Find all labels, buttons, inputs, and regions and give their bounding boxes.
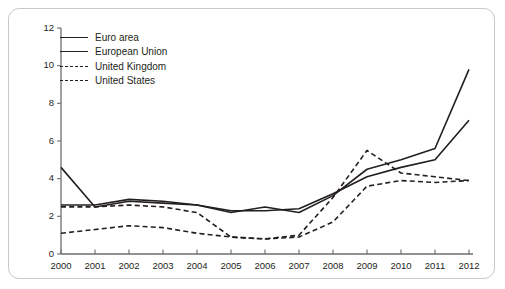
legend-label: European Union [95,46,167,57]
legend-label: United Kingdom [95,61,166,72]
series-line-euro-area [61,69,469,212]
y-axis-label: 10 [20,59,54,70]
y-axis-label: 12 [20,22,54,33]
legend-label: Euro area [95,32,139,43]
y-axis-label: 8 [20,97,54,108]
legend-swatch-solid [60,37,88,38]
legend-swatch-dashed [60,80,88,81]
legend-item: European Union [60,45,167,60]
series-line-european-union [61,120,469,210]
y-axis-label: 2 [20,210,54,221]
y-axis-label: 6 [20,135,54,146]
series-line-united-kingdom [61,150,469,239]
legend-swatch-dashed [60,66,88,67]
x-axis-label: 2012 [449,260,489,271]
legend-item: United Kingdom [60,59,167,74]
y-axis-label: 0 [20,248,54,259]
y-axis-label: 4 [20,172,54,183]
legend-swatch-solid [60,51,88,52]
legend-item: United States [60,74,167,89]
legend-item: Euro area [60,30,167,45]
series-line-united-states [61,181,469,239]
chart-legend: Euro areaEuropean UnionUnited KingdomUni… [60,30,167,88]
legend-label: United States [95,75,155,86]
